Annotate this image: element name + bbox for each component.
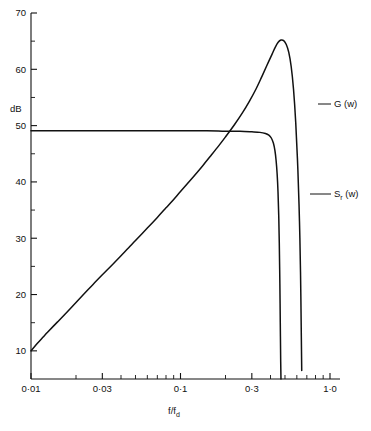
plot-area: 70605040302010 0·010·030·10·31·0 dB f/fd…: [0, 0, 371, 431]
y-tick-label: 40: [15, 176, 26, 187]
series-curve-g: [31, 40, 302, 371]
x-tick-label: 0·01: [21, 383, 40, 394]
y-tick-label: 10: [15, 345, 26, 356]
y-tick-label: 30: [15, 233, 26, 244]
y-tick-label: 60: [15, 64, 26, 75]
axis-lines: [31, 13, 340, 379]
x-axis-ticks: [31, 373, 330, 379]
series-label-g: G (w): [334, 98, 357, 109]
annotation-leaders: [310, 104, 331, 194]
series-label-sr: Sr (w): [334, 188, 359, 201]
y-tick-label: 20: [15, 289, 26, 300]
y-axis-title: dB: [10, 103, 22, 114]
x-tick-label: 1·0: [323, 383, 337, 394]
y-tick-label: 70: [15, 7, 26, 18]
y-tick-label: 50: [15, 120, 26, 131]
chart-figure: 70605040302010 0·010·030·10·31·0 dB f/fd…: [0, 0, 371, 431]
y-axis-ticks: [31, 13, 37, 351]
x-tick-labels: 0·010·030·10·31·0: [21, 383, 336, 394]
x-tick-label: 0·03: [93, 383, 112, 394]
series-curve-sr: [31, 131, 281, 379]
y-tick-labels: 70605040302010: [15, 7, 26, 356]
x-tick-label: 0·3: [245, 383, 259, 394]
x-axis-title: f/fd: [168, 405, 180, 418]
series-curves: [31, 40, 302, 379]
x-tick-label: 0·1: [174, 383, 188, 394]
